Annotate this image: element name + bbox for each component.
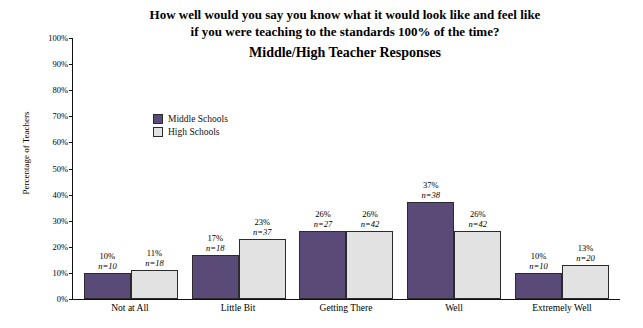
bar-wrap-ms-4: 10% n=10	[515, 38, 562, 299]
legend-swatch-high-schools	[153, 127, 163, 137]
x-label-extremely-well: Extremely Well	[508, 303, 616, 313]
bar-wrap-hs-3: 26% n=42	[454, 38, 501, 299]
y-tick-50: 50%	[34, 164, 68, 174]
bar-middle-schools-4[interactable]: 10% n=10	[515, 273, 562, 299]
bar-high-schools-1[interactable]: 23% n=37	[239, 239, 286, 299]
bar-wrap-ms-2: 26% n=27	[299, 38, 346, 299]
bar-value-label-ms-4: 10% n=10	[529, 251, 548, 271]
bar-value-label-hs-0: 11% n=18	[145, 248, 164, 268]
x-axis-labels: Not at All Little Bit Getting There Well…	[72, 303, 620, 313]
bar-wrap-hs-1: 23% n=37	[239, 38, 286, 299]
chart-title-line-1: How well would you say you know what it …	[60, 6, 630, 23]
legend-label-high-schools: High Schools	[168, 127, 219, 137]
bar-wrap-hs-4: 13% n=20	[562, 38, 609, 299]
legend-label-middle-schools: Middle Schools	[168, 114, 228, 124]
bar-group-getting-there: 26% n=27 26% n=42	[293, 38, 401, 299]
bar-value-label-hs-2: 26% n=42	[361, 209, 380, 229]
bar-value-label-ms-0: 10% n=10	[98, 251, 117, 271]
y-tick-10: 10%	[34, 268, 68, 278]
bar-group-extremely-well: 10% n=10 13% n=20	[508, 38, 616, 299]
bar-middle-schools-0[interactable]: 10% n=10	[84, 273, 131, 299]
bar-wrap-hs-0: 11% n=18	[131, 38, 178, 299]
legend-item-high-schools[interactable]: High Schools	[153, 127, 228, 137]
y-tick-20: 20%	[34, 242, 68, 252]
bar-group-well: 37% n=38 26% n=42	[400, 38, 508, 299]
bar-value-label-hs-3: 26% n=42	[469, 209, 488, 229]
bar-value-label-ms-2: 26% n=27	[314, 209, 333, 229]
plot-area: 0% 10% 20% 30% 40% 50% 60% 70% 80% 90% 1…	[72, 38, 620, 300]
bar-value-label-ms-1: 17% n=18	[206, 233, 225, 253]
bar-group-not-at-all: 10% n=10 11% n=18	[77, 38, 185, 299]
y-tick-60: 60%	[34, 137, 68, 147]
bar-high-schools-2[interactable]: 26% n=42	[346, 231, 393, 299]
x-label-getting-there: Getting There	[292, 303, 400, 313]
y-tick-100: 100%	[34, 33, 68, 43]
bar-group-little-bit: 17% n=18 23% n=37	[185, 38, 293, 299]
x-label-not-at-all: Not at All	[76, 303, 184, 313]
y-tick-70: 70%	[34, 111, 68, 121]
bar-value-label-hs-4: 13% n=20	[576, 243, 595, 263]
bar-high-schools-0[interactable]: 11% n=18	[131, 270, 178, 299]
y-tick-90: 90%	[34, 59, 68, 69]
bar-wrap-ms-0: 10% n=10	[84, 38, 131, 299]
bar-high-schools-3[interactable]: 26% n=42	[454, 231, 501, 299]
y-tick-40: 40%	[34, 190, 68, 200]
legend-item-middle-schools[interactable]: Middle Schools	[153, 114, 228, 124]
chart-legend: Middle Schools High Schools	[153, 114, 228, 140]
bar-wrap-ms-1: 17% n=18	[192, 38, 239, 299]
y-tick-80: 80%	[34, 85, 68, 95]
bar-middle-schools-1[interactable]: 17% n=18	[192, 255, 239, 299]
bar-wrap-hs-2: 26% n=42	[346, 38, 393, 299]
bar-wrap-ms-3: 37% n=38	[407, 38, 454, 299]
y-axis-label: Percentage of Teachers	[21, 83, 31, 223]
bar-value-label-ms-3: 37% n=38	[422, 180, 441, 200]
chart-container: How well would you say you know what it …	[0, 0, 643, 328]
bar-middle-schools-2[interactable]: 26% n=27	[299, 231, 346, 299]
bar-groups: 10% n=10 11% n=18	[73, 38, 620, 299]
y-tick-30: 30%	[34, 216, 68, 226]
bar-high-schools-4[interactable]: 13% n=20	[562, 265, 609, 299]
legend-swatch-middle-schools	[153, 114, 163, 124]
bar-middle-schools-3[interactable]: 37% n=38	[407, 202, 454, 299]
x-label-well: Well	[400, 303, 508, 313]
x-label-little-bit: Little Bit	[184, 303, 292, 313]
bar-value-label-hs-1: 23% n=37	[253, 217, 272, 237]
y-tick-0: 0%	[34, 294, 68, 304]
